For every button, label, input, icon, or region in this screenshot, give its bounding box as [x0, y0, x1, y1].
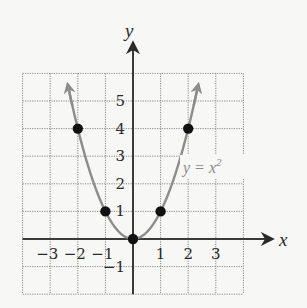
curve-arrow-right-icon [194, 84, 199, 105]
y-tick-label: 1 [115, 202, 125, 220]
svg-text:y = x2: y = x2 [181, 156, 222, 177]
y-axis-label: y [123, 20, 134, 41]
y-tick-label: −1 [103, 258, 125, 276]
curve-label-exponent: 2 [216, 156, 222, 168]
x-tick-label: 1 [156, 245, 166, 263]
parabola-chart: −3−2−1123−112345 y = x2 x y [0, 0, 307, 308]
curve-arrow-left-icon [68, 84, 73, 105]
data-point [73, 123, 83, 133]
data-point [128, 234, 138, 244]
x-tick-label: −3 [36, 245, 58, 263]
data-point [100, 206, 110, 216]
x-tick-label: 2 [183, 245, 193, 263]
data-point [155, 206, 165, 216]
y-tick-label: 5 [115, 92, 125, 110]
x-axis-label: x [278, 229, 288, 250]
x-tick-label: 3 [211, 245, 221, 263]
y-tick-label: 3 [115, 147, 125, 165]
curve-label: y = x2 [180, 155, 244, 179]
curve-label-text: y = x [181, 159, 216, 177]
x-tick-label: −2 [64, 245, 86, 263]
y-tick-label: 4 [115, 120, 125, 138]
data-point [183, 123, 193, 133]
y-tick-label: 2 [115, 175, 125, 193]
